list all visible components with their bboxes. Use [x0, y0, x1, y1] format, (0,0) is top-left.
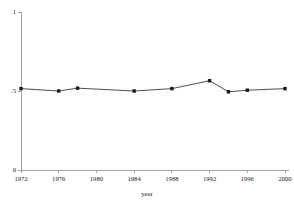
x-tick-label: 1980 [90, 175, 104, 182]
data-point-marker [227, 90, 230, 93]
x-tick-label: 1984 [128, 175, 142, 182]
chart-container: 0.51 19721976198019841988199219962000 ye… [0, 0, 294, 201]
data-point-marker [76, 86, 79, 89]
y-tick-label: .5 [11, 87, 17, 94]
data-point-marker [132, 89, 135, 92]
y-tick-label: 1 [13, 8, 16, 15]
x-tick-label: 2000 [278, 175, 292, 182]
data-point-marker [170, 87, 173, 90]
x-tick-label: 1976 [52, 175, 66, 182]
x-axis-title: year [141, 190, 153, 197]
data-point-marker [246, 89, 249, 92]
series-line-path [21, 81, 285, 92]
x-axis-ticks: 19721976198019841988199219962000 [14, 170, 292, 182]
x-tick-label: 1992 [203, 175, 216, 182]
x-tick-label: 1988 [165, 175, 179, 182]
y-tick-label: 0 [13, 166, 17, 173]
series-markers [19, 79, 286, 93]
x-tick-label: 1972 [14, 175, 27, 182]
x-tick-label: 1996 [241, 175, 255, 182]
data-point-marker [208, 79, 211, 82]
data-point-marker [19, 87, 22, 90]
data-point-marker [283, 87, 286, 90]
data-point-marker [57, 89, 60, 92]
data-series-group [19, 79, 286, 93]
y-axis-ticks: 0.51 [11, 8, 21, 173]
line-chart-plot: 0.51 19721976198019841988199219962000 ye… [0, 0, 294, 201]
